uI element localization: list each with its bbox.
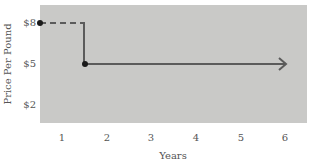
x-tick: 1	[59, 132, 65, 143]
x-tick: 2	[104, 132, 110, 143]
price-chart: $8 $5 $2 1 2 3 4 5 6 Years Price Per Pou…	[0, 0, 310, 162]
y-axis-label: Price Per Pound	[2, 23, 13, 105]
y-tick: $8	[23, 17, 36, 28]
x-tick: 6	[282, 132, 288, 143]
chart-svg: $8 $5 $2 1 2 3 4 5 6 Years Price Per Pou…	[0, 0, 310, 162]
start-point	[37, 20, 43, 26]
x-axis-label: Years	[158, 150, 187, 161]
x-tick: 3	[148, 132, 154, 143]
x-tick: 4	[193, 132, 199, 143]
x-tick: 5	[238, 132, 244, 143]
drop-point	[82, 61, 88, 67]
y-tick: $2	[23, 99, 36, 110]
y-tick: $5	[23, 58, 36, 69]
